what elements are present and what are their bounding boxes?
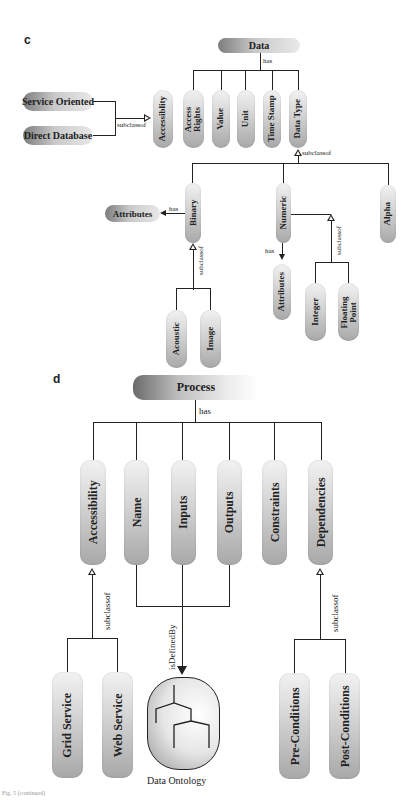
connector <box>93 422 94 460</box>
io-bus <box>136 606 230 607</box>
data-property-value: Value <box>212 90 230 148</box>
data-property-access-rights: Access Rights <box>183 90 204 148</box>
is-defined-by-arrow-icon <box>177 666 187 675</box>
data-property-time-stamp: Time Stamp <box>263 90 281 148</box>
process-root-node: Process <box>133 375 259 400</box>
connector <box>298 156 299 163</box>
connector <box>229 422 230 460</box>
data-property-unit: Unit <box>237 90 255 148</box>
connector <box>331 221 332 262</box>
accessibility-subclassof-label: subclassof <box>102 593 112 631</box>
accessibility-subclassof-label: subclassof <box>117 121 146 129</box>
has-arrow-icon <box>279 254 285 260</box>
process-properties-bus <box>93 422 322 423</box>
image-node: Image <box>200 310 221 368</box>
data-root-label: Data <box>249 40 270 51</box>
numeric-has-label: has <box>265 247 274 255</box>
pre-conditions-node: Pre-Conditions <box>279 673 310 779</box>
connector <box>192 163 193 183</box>
process-property-inputs: Inputs <box>171 460 196 565</box>
data-properties-bus <box>193 70 299 71</box>
grid-service-node: Grid Service <box>52 672 83 778</box>
numeric-subclassof-label: subclassof <box>335 226 343 255</box>
connector <box>182 565 183 607</box>
connector <box>348 262 349 283</box>
connector <box>176 288 177 310</box>
numeric-node: Numeric <box>276 183 291 243</box>
process-property-constraints: Constraints <box>262 460 287 565</box>
connector <box>182 422 183 460</box>
acoustic-node: Acoustic <box>166 310 187 368</box>
connector <box>229 565 230 607</box>
connector <box>210 288 211 310</box>
dependencies-subclassof-label: subclassof <box>330 595 340 633</box>
data-has-label: has <box>263 57 272 65</box>
connector <box>93 101 115 102</box>
connector <box>388 163 389 185</box>
process-has-connector <box>195 400 196 422</box>
binary-subclassof-label: subclassof <box>197 246 205 275</box>
connector <box>176 288 211 289</box>
binary-has-label: has <box>169 205 178 213</box>
connector <box>182 606 183 666</box>
tree-icon <box>148 678 219 769</box>
floating-point-node: Floating Point <box>338 283 359 341</box>
panel-c-label: c <box>24 33 31 47</box>
data-has-connector <box>260 53 261 70</box>
connector <box>294 639 295 673</box>
numeric-attributes-node: Attributes <box>273 264 291 320</box>
process-property-dependencies: Dependencies <box>308 460 333 565</box>
connector <box>117 638 118 672</box>
alpha-node: Alpha <box>380 185 396 243</box>
connector <box>345 639 346 673</box>
process-property-accessibility: Accessibility <box>80 460 106 565</box>
connector <box>291 214 331 215</box>
has-arrow-icon <box>160 210 166 216</box>
connector <box>166 213 185 214</box>
connector <box>298 70 299 90</box>
figure-caption: Fig. 5 (continued) <box>2 790 45 796</box>
connector <box>92 575 93 639</box>
data-root-node: Data <box>218 38 300 53</box>
connector <box>67 638 118 639</box>
connector <box>245 70 246 90</box>
data-ontology-node <box>147 677 220 770</box>
connector <box>283 163 284 183</box>
connector <box>67 638 68 672</box>
connector <box>294 639 346 640</box>
data-property-accessibility: Accessiblity <box>153 90 173 148</box>
is-defined-by-label: isDefinedBy <box>167 625 177 671</box>
post-conditions-node: Post-Conditions <box>329 673 360 779</box>
integer-node: Integer <box>305 283 326 341</box>
web-service-node: Web Service <box>102 672 133 778</box>
connector <box>320 575 321 639</box>
service-oriented-node: Service Oriented <box>23 92 93 111</box>
connector <box>315 262 316 283</box>
connector <box>315 262 349 263</box>
data-ontology-label: Data Ontology <box>147 775 206 786</box>
direct-database-node: Direct Database <box>23 126 93 145</box>
connector <box>221 70 222 90</box>
connector <box>136 422 137 460</box>
data-type-subclassof-label: subclassof <box>302 149 331 157</box>
binary-node: Binary <box>185 183 201 243</box>
connector <box>193 250 194 290</box>
connector <box>272 70 273 90</box>
binary-attributes-node: Attributes <box>105 205 160 222</box>
accessibility-subclass-connector <box>115 118 144 119</box>
data-types-bus <box>192 163 389 164</box>
connector <box>136 565 137 607</box>
connector <box>274 422 275 460</box>
connector <box>193 70 194 90</box>
process-property-name: Name <box>124 460 149 565</box>
process-has-label: has <box>199 406 211 416</box>
connector <box>321 422 322 460</box>
process-property-outputs: Outputs <box>217 460 242 565</box>
panel-d-label: d <box>53 372 60 386</box>
data-property-data-type: Data Type <box>289 90 307 148</box>
connector <box>93 135 115 136</box>
